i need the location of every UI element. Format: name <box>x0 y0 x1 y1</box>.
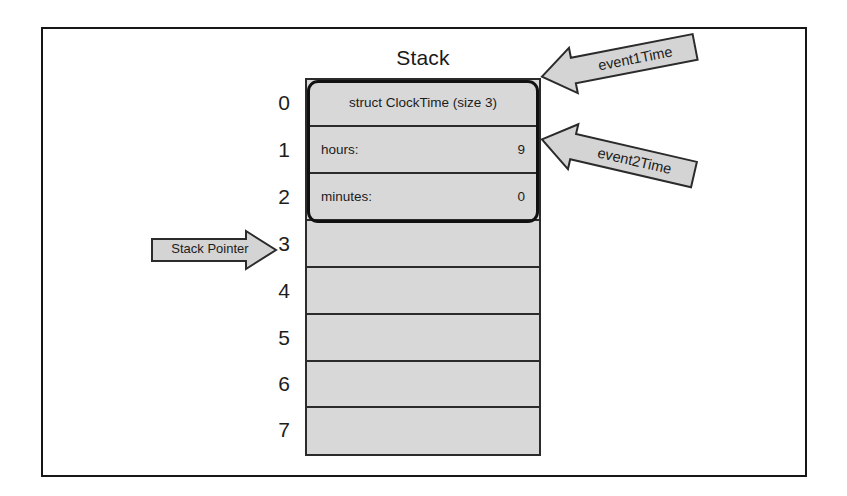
cell-label: hours: <box>321 142 359 157</box>
table-row <box>307 408 539 454</box>
row-index-2: 2 <box>258 186 290 207</box>
row-index-7: 7 <box>258 419 290 440</box>
row-index-0: 0 <box>258 92 290 113</box>
diagram-canvas: Stack struct ClockTime (size 3) hours: 9… <box>0 0 847 496</box>
table-row: minutes: 0 <box>307 174 539 221</box>
table-row: struct ClockTime (size 3) <box>307 80 539 127</box>
row-index-5: 5 <box>258 327 290 348</box>
table-row: hours: 9 <box>307 127 539 174</box>
table-row <box>307 362 539 408</box>
table-row <box>307 315 539 362</box>
cell-label: struct ClockTime (size 3) <box>349 95 497 110</box>
row-index-6: 6 <box>258 373 290 394</box>
cell-label: minutes: <box>321 189 372 204</box>
row-index-4: 4 <box>258 280 290 301</box>
table-row <box>307 221 539 268</box>
cell-value: 0 <box>517 189 525 204</box>
stack-table: struct ClockTime (size 3) hours: 9 minut… <box>305 78 541 456</box>
row-index-1: 1 <box>258 139 290 160</box>
table-row <box>307 268 539 315</box>
stack-pointer-label: Stack Pointer <box>160 241 260 256</box>
page-title: Stack <box>305 46 541 70</box>
cell-value: 9 <box>517 142 525 157</box>
